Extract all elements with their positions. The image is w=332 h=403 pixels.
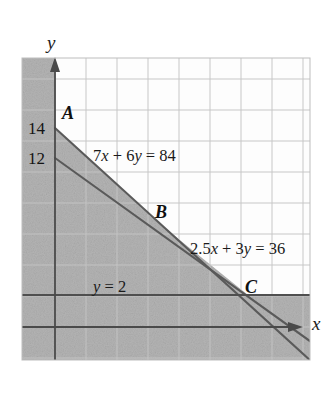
equation-label-2-5x-3y-36: 2.5x + 3y = 36 xyxy=(190,241,285,258)
equation-label-y-2: y = 2 xyxy=(93,279,126,296)
graph-figure: y x 14 12 A B C 7x + 6y = 84 2.5x + 3y =… xyxy=(0,0,332,403)
y-tick-label-14: 14 xyxy=(28,120,45,137)
x-axis-label: x xyxy=(312,314,320,333)
vertex-label-b: B xyxy=(155,203,167,221)
equation-label-7x-6y-84: 7x + 6y = 84 xyxy=(93,148,176,165)
y-axis-label: y xyxy=(47,33,55,52)
vertex-label-c: C xyxy=(245,278,257,296)
vertex-label-a: A xyxy=(62,104,74,122)
y-tick-label-12: 12 xyxy=(28,150,45,167)
